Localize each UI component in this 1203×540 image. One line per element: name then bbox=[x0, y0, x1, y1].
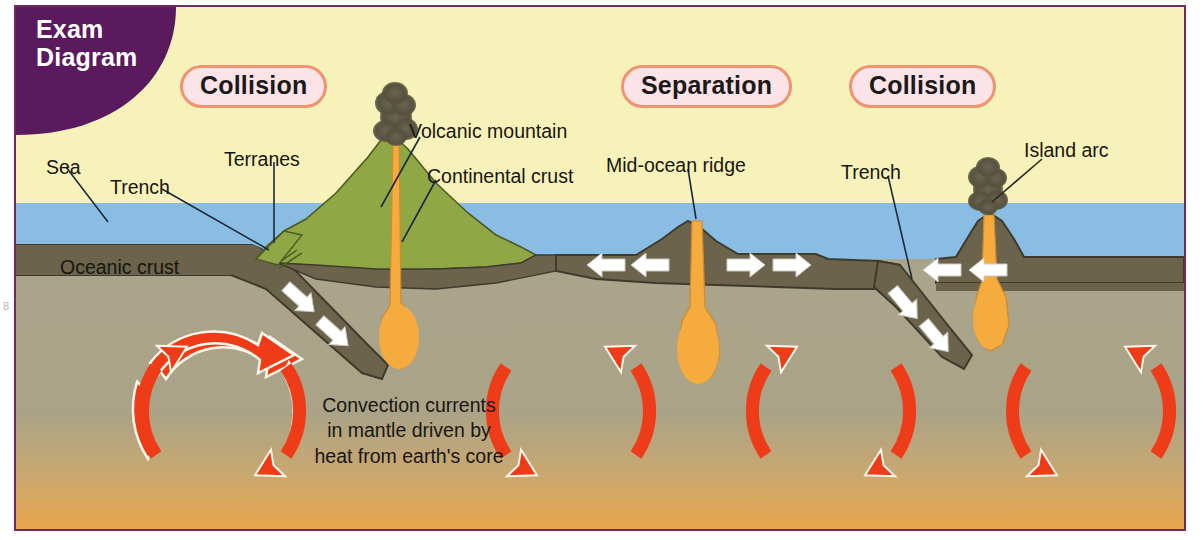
corner-badge-line1: Exam bbox=[36, 15, 137, 43]
convection-caption: Convection currents in mantle driven by … bbox=[284, 393, 534, 469]
zone-badge-separation[interactable]: Separation bbox=[621, 65, 792, 108]
convection-caption-line-3: heat from earth's core bbox=[284, 444, 534, 469]
magma-chamber-island-arc bbox=[973, 289, 1007, 349]
magma-chamber-volcano bbox=[379, 305, 419, 369]
label-island-arc: Island arc bbox=[1024, 138, 1109, 163]
label-volcanic-mountain: Volcanic mountain bbox=[409, 119, 567, 144]
label-continental-crust: Continental crust bbox=[427, 164, 573, 189]
corner-badge-text: Exam Diagram bbox=[36, 15, 137, 71]
magma-chamber-ridge bbox=[677, 314, 719, 384]
label-sea: Sea bbox=[46, 155, 81, 180]
diagram-root: 8 bbox=[0, 0, 1203, 540]
convection-caption-line-2: in mantle driven by bbox=[284, 418, 534, 443]
exam-diagram-corner-badge: Exam Diagram bbox=[16, 7, 176, 135]
label-mid-ocean-ridge: Mid-ocean ridge bbox=[606, 153, 746, 178]
corner-badge-line2: Diagram bbox=[36, 43, 137, 71]
zone-badge-collision-left[interactable]: Collision bbox=[180, 65, 327, 108]
label-terranes: Terranes bbox=[224, 147, 300, 172]
convection-caption-line-1: Convection currents bbox=[284, 393, 534, 418]
diagram-frame: Exam Diagram Collision Separation Collis… bbox=[14, 5, 1186, 531]
label-trench-right: Trench bbox=[841, 160, 901, 185]
zone-badge-collision-right[interactable]: Collision bbox=[849, 65, 996, 108]
page-number: 8 bbox=[0, 300, 12, 312]
label-trench-left: Trench bbox=[110, 175, 170, 200]
label-oceanic-crust: Oceanic crust bbox=[60, 255, 179, 280]
